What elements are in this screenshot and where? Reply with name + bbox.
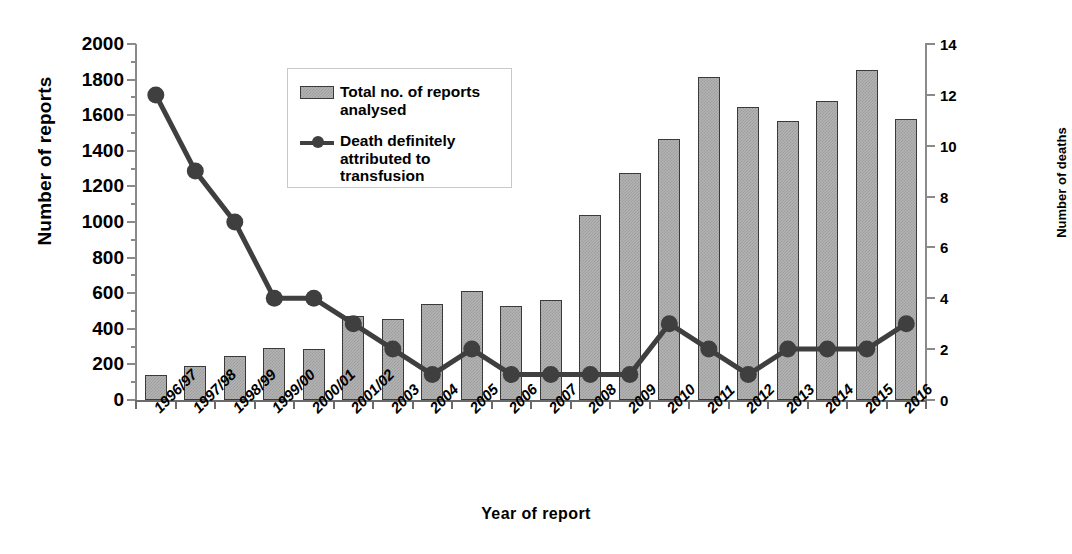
- line-marker: 2015: 2: [858, 341, 875, 358]
- y-tick-right: [925, 246, 935, 248]
- line-marker: 2004: 1: [424, 366, 441, 383]
- line-marker: 2016: 3: [898, 315, 915, 332]
- legend-label-deaths: Death definitely attributed to transfusi…: [340, 132, 511, 185]
- y-tick-label-left: 200: [92, 353, 124, 375]
- y-tick-right: [925, 43, 935, 45]
- line-marker: 1996/97: 12: [147, 86, 164, 103]
- y-axis-left-title: Number of reports: [34, 41, 56, 281]
- y-tick-right: [925, 297, 935, 299]
- y-tick-label-right: 0: [940, 392, 948, 409]
- y-tick-label-left: 400: [92, 318, 124, 340]
- line-marker: 1999/00: 4: [266, 290, 283, 307]
- y-tick-left: [127, 79, 136, 81]
- line-marker: 2000/01: 4: [305, 290, 322, 307]
- line-marker-icon: [300, 134, 334, 150]
- y-tick-label-right: 6: [940, 239, 948, 256]
- y-tick-label-right: 12: [940, 86, 957, 103]
- chart-root: Number of reports Number of deaths Year …: [0, 0, 1072, 554]
- line-marker: 2007: 1: [542, 366, 559, 383]
- y-tick-right: [925, 94, 935, 96]
- y-tick-label-left: 800: [92, 247, 124, 269]
- line-marker: 2011: 2: [700, 341, 717, 358]
- y-axis-right-title: Number of deaths: [1054, 88, 1069, 278]
- death-line-path: [156, 95, 907, 375]
- x-axis-title: Year of report: [0, 505, 1072, 523]
- line-marker: 2014: 2: [819, 341, 836, 358]
- line-marker: 2009: 1: [621, 366, 638, 383]
- y-tick-left: [127, 43, 136, 45]
- y-tick-label-right: 4: [940, 290, 948, 307]
- bar-swatch-icon: [300, 86, 334, 99]
- line-marker: 2001/02: 3: [345, 315, 362, 332]
- y-tick-right: [925, 196, 935, 198]
- y-tick-label-left: 1600: [82, 104, 124, 126]
- line-marker: 2013: 2: [779, 341, 796, 358]
- plot-frame: 0200400600800100012001400160018002000 02…: [136, 44, 926, 400]
- y-tick-label-right: 2: [940, 341, 948, 358]
- y-tick-left: [127, 363, 136, 365]
- death-line-markers: 1996/97: 121997/98: 91998/99: 71999/00: …: [147, 86, 915, 383]
- y-tick-label-left: 2000: [82, 33, 124, 55]
- legend-item-deaths: Death definitely attributed to transfusi…: [300, 132, 511, 185]
- y-tick-label-left: 1200: [82, 175, 124, 197]
- y-tick-label-left: 1800: [82, 69, 124, 91]
- line-dot-icon: [312, 136, 324, 148]
- line-series: 1996/97: 121997/98: 91998/99: 71999/00: …: [136, 44, 926, 400]
- y-tick-label-right: 8: [940, 188, 948, 205]
- line-marker: 2006: 1: [503, 366, 520, 383]
- legend-label-reports: Total no. of reports analysed: [340, 83, 511, 118]
- line-marker: 2003: 2: [384, 341, 401, 358]
- line-marker: 2010: 3: [661, 315, 678, 332]
- line-marker: 2012: 1: [740, 366, 757, 383]
- line-marker: 1998/99: 7: [226, 214, 243, 231]
- plot-area: 0200400600800100012001400160018002000 02…: [136, 44, 926, 400]
- y-tick-label-right: 10: [940, 137, 957, 154]
- y-tick-label-right: 14: [940, 36, 957, 53]
- y-tick-label-left: 600: [92, 282, 124, 304]
- line-marker: 2005: 2: [463, 341, 480, 358]
- y-tick-left: [127, 292, 136, 294]
- y-tick-right: [925, 145, 935, 147]
- x-axis-tick-labels: 1996/971997/981998/991999/002000/012001/…: [136, 404, 926, 504]
- line-marker: 2008: 1: [582, 366, 599, 383]
- y-tick-right: [925, 348, 935, 350]
- y-tick-left: [127, 185, 136, 187]
- chart-legend: Total no. of reports analysed Death defi…: [287, 68, 512, 188]
- y-tick-label-left: 1000: [82, 211, 124, 233]
- y-tick-left: [127, 257, 136, 259]
- legend-item-reports: Total no. of reports analysed: [300, 83, 511, 118]
- y-tick-left: [127, 328, 136, 330]
- y-tick-left: [127, 221, 136, 223]
- line-marker: 1997/98: 9: [187, 163, 204, 180]
- y-tick-left: [127, 150, 136, 152]
- y-tick-label-left: 1400: [82, 140, 124, 162]
- y-tick-left: [127, 114, 136, 116]
- y-tick-label-left: 0: [113, 389, 124, 411]
